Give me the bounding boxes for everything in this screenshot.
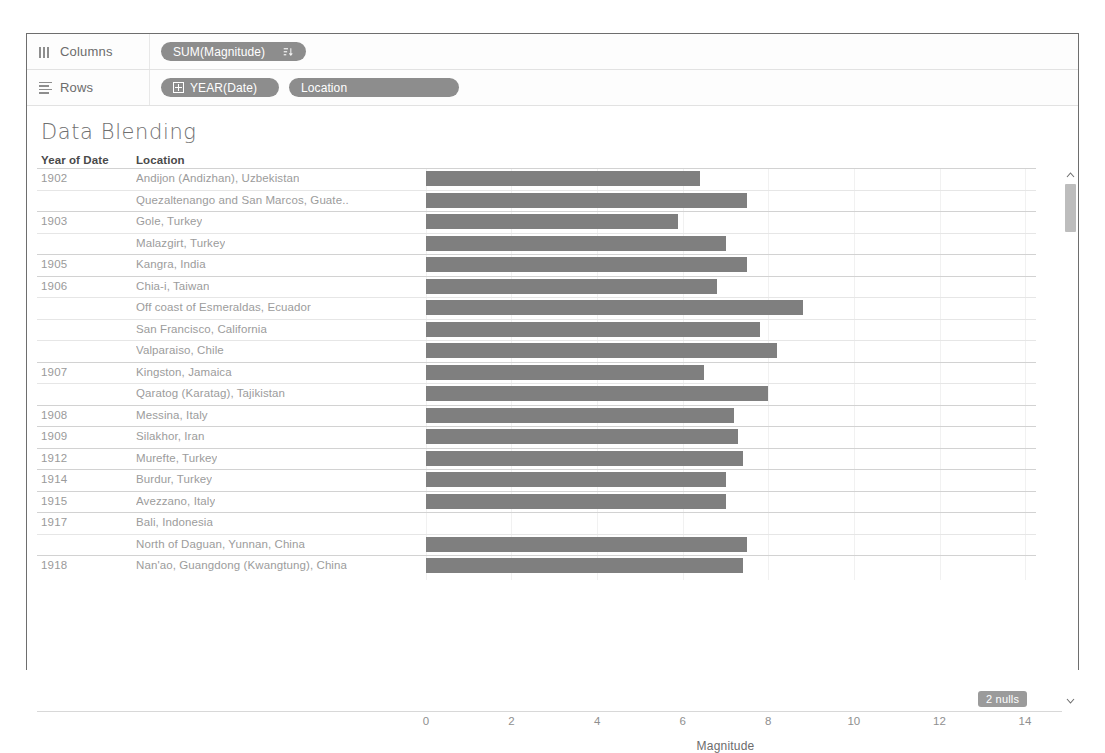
row-location-label[interactable]: Quezaltenango and San Marcos, Guate.. [136, 194, 349, 206]
chevron-down-icon[interactable] [1063, 694, 1078, 708]
tableau-worksheet-figure: Columns SUM(Magnitude) Rows Y [26, 33, 1079, 670]
table-row[interactable]: San Francisco, California [27, 319, 1036, 341]
bar-mark[interactable] [426, 408, 734, 423]
row-year-label[interactable]: 1908 [41, 409, 67, 421]
table-row[interactable]: Off coast of Esmeraldas, Ecuador [27, 297, 1036, 319]
bar-mark[interactable] [426, 236, 726, 251]
row-location-label[interactable]: Chia-i, Taiwan [136, 280, 209, 292]
columns-shelf[interactable]: Columns SUM(Magnitude) [27, 34, 1078, 70]
table-row[interactable]: 1912Murefte, Turkey [27, 448, 1036, 470]
bar-mark[interactable] [426, 279, 717, 294]
bar-mark[interactable] [426, 171, 700, 186]
row-location-label[interactable]: Malazgirt, Turkey [136, 237, 225, 249]
bar-mark[interactable] [426, 472, 726, 487]
table-row[interactable]: Valparaiso, Chile [27, 340, 1036, 362]
bar-mark[interactable] [426, 257, 747, 272]
rows-pill-container: YEAR(Date) Location [149, 78, 459, 97]
chevron-up-icon[interactable] [1063, 168, 1078, 182]
bar-mark[interactable] [426, 214, 678, 229]
table-row[interactable]: 1908Messina, Italy [27, 405, 1036, 427]
bar-mark[interactable] [426, 429, 738, 444]
row-location-label[interactable]: Valparaiso, Chile [136, 344, 224, 356]
row-location-label[interactable]: Gole, Turkey [136, 215, 202, 227]
row-location-label[interactable]: Off coast of Esmeraldas, Ecuador [136, 301, 311, 313]
sort-descending-icon[interactable] [282, 46, 294, 58]
row-divider [37, 190, 1036, 191]
row-location-label[interactable]: North of Daguan, Yunnan, China [136, 538, 305, 550]
row-location-label[interactable]: Qaratog (Karatag), Tajikistan [136, 387, 285, 399]
table-row[interactable]: Quezaltenango and San Marcos, Guate.. [27, 190, 1036, 212]
rows-shelf-label: Rows [27, 80, 149, 95]
row-year-label[interactable]: 1912 [41, 452, 67, 464]
bar-mark[interactable] [426, 300, 803, 315]
row-year-label[interactable]: 1909 [41, 430, 67, 442]
columns-icon [39, 46, 52, 58]
table-row[interactable]: 1917Bali, Indonesia [27, 512, 1036, 534]
row-year-label[interactable]: 1918 [41, 559, 67, 571]
table-row[interactable]: 1906Chia-i, Taiwan [27, 276, 1036, 298]
vertical-scrollbar[interactable] [1063, 168, 1078, 708]
x-axis-title[interactable]: Magnitude [426, 739, 1025, 753]
expand-plus-icon[interactable] [173, 82, 184, 93]
table-row[interactable]: 1903Gole, Turkey [27, 211, 1036, 233]
table-row[interactable]: 1905Kangra, India [27, 254, 1036, 276]
row-divider [37, 297, 1036, 298]
bar-mark[interactable] [426, 537, 747, 552]
row-year-label[interactable]: 1907 [41, 366, 67, 378]
chart-rows-area: 1902Andijon (Andizhan), UzbekistanQuezal… [27, 168, 1078, 580]
row-location-label[interactable]: Kingston, Jamaica [136, 366, 232, 378]
table-row[interactable]: 1914Burdur, Turkey [27, 469, 1036, 491]
x-axis-tick-label: 6 [680, 715, 686, 727]
column-header-year[interactable]: Year of Date [41, 154, 109, 166]
row-year-label[interactable]: 1906 [41, 280, 67, 292]
pill-sum-magnitude[interactable]: SUM(Magnitude) [161, 42, 306, 61]
row-year-label[interactable]: 1902 [41, 172, 67, 184]
row-year-label[interactable]: 1905 [41, 258, 67, 270]
bar-mark[interactable] [426, 193, 747, 208]
row-location-label[interactable]: Avezzano, Italy [136, 495, 215, 507]
worksheet-canvas: Data Blending Year of Date Location 1902… [27, 106, 1078, 671]
row-location-label[interactable]: Burdur, Turkey [136, 473, 212, 485]
row-location-label[interactable]: Messina, Italy [136, 409, 208, 421]
table-row[interactable]: 1907Kingston, Jamaica [27, 362, 1036, 384]
bar-mark[interactable] [426, 451, 743, 466]
pill-location[interactable]: Location [289, 78, 459, 97]
row-year-label[interactable]: 1915 [41, 495, 67, 507]
bar-mark[interactable] [426, 343, 777, 358]
columns-shelf-label: Columns [27, 44, 149, 59]
table-row[interactable]: 1915Avezzano, Italy [27, 491, 1036, 513]
x-axis-tick-label: 12 [933, 715, 946, 727]
table-row[interactable]: 1918Nan'ao, Guangdong (Kwangtung), China [27, 555, 1036, 577]
bar-mark[interactable] [426, 365, 704, 380]
row-year-label[interactable]: 1903 [41, 215, 67, 227]
bar-mark[interactable] [426, 322, 760, 337]
rows-shelf[interactable]: Rows YEAR(Date) Location [27, 70, 1078, 106]
row-divider [37, 254, 1036, 255]
row-location-label[interactable]: Bali, Indonesia [136, 516, 213, 528]
pill-year-date[interactable]: YEAR(Date) [161, 78, 279, 97]
status-badge-nulls[interactable]: 2 nulls [978, 691, 1027, 707]
x-axis-tick-label: 0 [423, 715, 429, 727]
row-location-label[interactable]: Andijon (Andizhan), Uzbekistan [136, 172, 299, 184]
row-location-label[interactable]: Murefte, Turkey [136, 452, 217, 464]
row-divider [37, 469, 1036, 470]
row-location-label[interactable]: Kangra, India [136, 258, 206, 270]
row-location-label[interactable]: San Francisco, California [136, 323, 267, 335]
table-row[interactable]: North of Daguan, Yunnan, China [27, 534, 1036, 556]
bar-mark[interactable] [426, 386, 768, 401]
table-row[interactable]: 1909Silakhor, Iran [27, 426, 1036, 448]
table-row[interactable]: 1902Andijon (Andizhan), Uzbekistan [27, 168, 1036, 190]
bar-mark[interactable] [426, 558, 743, 573]
row-year-label[interactable]: 1917 [41, 516, 67, 528]
scrollbar-thumb[interactable] [1065, 184, 1076, 232]
table-row[interactable]: Qaratog (Karatag), Tajikistan [27, 383, 1036, 405]
table-row[interactable]: Malazgirt, Turkey [27, 233, 1036, 255]
column-header-location[interactable]: Location [136, 154, 185, 166]
row-location-label[interactable]: Nan'ao, Guangdong (Kwangtung), China [136, 559, 347, 571]
scrollbar-track[interactable] [1065, 182, 1076, 694]
columns-pill-container: SUM(Magnitude) [149, 42, 306, 61]
row-year-label[interactable]: 1914 [41, 473, 67, 485]
row-divider [37, 362, 1036, 363]
row-location-label[interactable]: Silakhor, Iran [136, 430, 205, 442]
bar-mark[interactable] [426, 494, 726, 509]
